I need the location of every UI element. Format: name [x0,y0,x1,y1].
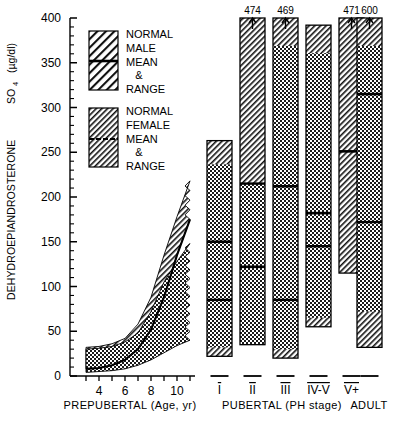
y-axis-title-sub-index: 4 [11,82,20,86]
bar-group: 474469471600 [207,5,382,358]
stage-label-I: I [218,383,221,397]
stage-label-II: II [249,383,256,397]
legend-swatch-normal-male [89,31,118,90]
prepubertal-bands [86,181,190,373]
legend-line: RANGE [126,83,165,95]
legend-line: MEAN [126,133,158,145]
x-axis-prepubertal: 46810 [70,376,195,398]
y-tick-label: 300 [41,101,61,115]
y-tick-labels: 400350300250200150100500 [41,11,61,383]
x-tick-label: 8 [148,384,155,398]
legend-line: NORMAL [126,105,173,117]
y-tick-label: 150 [41,235,61,249]
bar-overflow-label: 600 [361,5,378,16]
y-axis-title-units: (µg/dl) [5,43,17,73]
y-tick-group [70,18,77,376]
xlabel-prepubertal: PREPUBERTAL (Age, yr) [64,399,197,411]
bar-ADULT[interactable]: 600 [357,5,382,347]
x-tick-label: 6 [122,384,129,398]
pubertal-stage-labels: IIIIIIIV-VV+ [218,383,359,397]
legend-line: MALE [126,42,156,54]
stage-label-IV-V: IV-V [307,383,330,397]
xlabel-pubertal: PUBERTAL (PH stage) [222,399,342,411]
bar-IV-V[interactable] [306,25,331,327]
bar-III[interactable]: 469 [273,5,298,358]
bar-I[interactable] [207,141,232,357]
legend-line: NORMAL [126,28,173,40]
dheas-chart: 400350300250200150100500 DEHYDROEPIANDRO… [0,0,398,422]
legend-label-normal-female: NORMALFEMALEMEAN&RANGE [126,105,173,172]
legend-line: FEMALE [126,119,170,131]
legend: NORMALMALEMEAN&RANGE NORMALFEMALEMEAN&RA… [89,28,173,172]
legend-line: & [135,69,143,81]
y-tick-label: 350 [41,56,61,70]
legend-swatch-normal-female [89,108,118,167]
y-tick-label: 100 [41,280,61,294]
x-tick-label: 4 [96,384,103,398]
y-tick-label: 200 [41,190,61,204]
y-axis-title: DEHYDROEPIANDROSTERONE SO 4 (µg/dl) [5,43,20,300]
y-axis-title-sub: SO [5,89,17,104]
bar-overflow-label: 474 [244,5,261,16]
bar-overflow-label: 471 [343,5,360,16]
y-tick-label: 400 [41,11,61,25]
legend-line: RANGE [126,160,165,172]
figure-root: 400350300250200150100500 DEHYDROEPIANDRO… [0,0,398,422]
y-axis-title-main: DEHYDROEPIANDROSTERONE [5,140,17,300]
legend-label-normal-male: NORMALMALEMEAN&RANGE [126,28,173,95]
bar-II[interactable]: 474 [240,5,265,345]
legend-line: MEAN [126,56,158,68]
xlabel-adult: ADULT [350,399,387,411]
stage-label-V+: V+ [344,383,359,397]
x-tick-label: 10 [170,384,184,398]
x-tick-labels-prepubertal: 46810 [96,384,184,398]
bar-overflow-label: 469 [277,5,294,16]
x-tick-group-prepubertal [86,376,190,381]
y-axis: 400350300250200150100500 [41,11,77,383]
y-tick-label: 250 [41,145,61,159]
y-tick-label: 50 [48,324,62,338]
stage-label-III: III [280,383,290,397]
y-tick-label: 0 [54,369,61,383]
legend-line: & [135,146,143,158]
